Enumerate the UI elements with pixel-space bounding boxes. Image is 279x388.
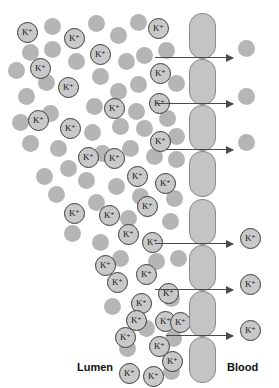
particle xyxy=(238,88,255,105)
potassium-ion-label: K⁺ xyxy=(63,83,74,92)
particle xyxy=(170,250,187,267)
particle xyxy=(238,134,255,151)
transport-arrow xyxy=(155,289,233,290)
potassium-ion-label: K⁺ xyxy=(132,172,143,181)
potassium-ion: K⁺ xyxy=(104,98,125,119)
potassium-ion-label: K⁺ xyxy=(160,179,171,188)
particle xyxy=(110,27,127,44)
particle xyxy=(60,160,77,177)
epithelial-cell xyxy=(189,151,216,197)
potassium-ion-label: K⁺ xyxy=(109,104,120,113)
potassium-ion: K⁺ xyxy=(143,366,164,387)
potassium-ion: K⁺ xyxy=(155,173,176,194)
particle xyxy=(168,75,185,92)
potassium-ion-label: K⁺ xyxy=(123,230,134,239)
particle xyxy=(86,98,103,115)
transport-arrow xyxy=(166,335,233,336)
epithelial-cell xyxy=(189,59,216,105)
particle xyxy=(88,15,105,32)
potassium-ion: K⁺ xyxy=(136,264,157,285)
potassium-ion-label: K⁺ xyxy=(112,278,123,287)
potassium-ion-label: K⁺ xyxy=(142,202,153,211)
particle xyxy=(64,225,81,242)
particle xyxy=(122,140,139,157)
potassium-ion-label: K⁺ xyxy=(35,64,46,73)
potassium-ion: K⁺ xyxy=(104,148,125,169)
potassium-ion-label: K⁺ xyxy=(147,238,158,247)
potassium-ion: K⁺ xyxy=(162,351,183,372)
potassium-ion: K⁺ xyxy=(28,110,49,131)
potassium-ion: K⁺ xyxy=(115,327,136,348)
particle xyxy=(92,68,109,85)
potassium-ion: K⁺ xyxy=(107,272,128,293)
particle xyxy=(130,14,147,31)
potassium-ion-label: K⁺ xyxy=(154,342,165,351)
potassium-ion-label: K⁺ xyxy=(83,153,94,162)
epithelial-cell xyxy=(189,337,216,383)
potassium-ion-label: K⁺ xyxy=(167,357,178,366)
particle xyxy=(48,186,65,203)
particle xyxy=(22,135,39,152)
particle xyxy=(162,213,179,230)
lumen-label: Lumen xyxy=(77,361,113,373)
potassium-ion-label: K⁺ xyxy=(245,234,256,243)
potassium-ion: K⁺ xyxy=(64,28,85,49)
potassium-ion-label: K⁺ xyxy=(104,211,115,220)
potassium-ion: K⁺ xyxy=(137,196,158,217)
transport-arrow xyxy=(166,149,233,150)
particle xyxy=(36,168,53,185)
particle xyxy=(108,178,125,195)
potassium-ion: K⁺ xyxy=(148,18,169,39)
potassium-ion: K⁺ xyxy=(30,58,51,79)
potassium-ion-label: K⁺ xyxy=(155,137,166,146)
potassium-ion: K⁺ xyxy=(17,22,38,43)
potassium-ion: K⁺ xyxy=(127,166,148,187)
potassium-ion-label: K⁺ xyxy=(100,261,111,270)
potassium-ion-label: K⁺ xyxy=(65,124,76,133)
particle xyxy=(68,53,85,70)
potassium-ion-label: K⁺ xyxy=(148,372,159,381)
potassium-ion-label: K⁺ xyxy=(33,116,44,125)
potassium-ion: K⁺ xyxy=(119,363,140,384)
potassium-ion: K⁺ xyxy=(240,274,261,295)
potassium-ion-label: K⁺ xyxy=(245,326,256,335)
particle xyxy=(128,103,145,120)
particle xyxy=(136,47,153,64)
potassium-ion-label: K⁺ xyxy=(124,369,135,378)
potassium-ion-label: K⁺ xyxy=(131,316,142,325)
potassium-ion: K⁺ xyxy=(170,312,191,333)
epithelial-cell xyxy=(189,105,216,151)
particle xyxy=(118,53,135,70)
epithelial-cell xyxy=(189,13,216,59)
potassium-ion: K⁺ xyxy=(90,44,111,65)
potassium-ion-label: K⁺ xyxy=(109,154,120,163)
potassium-ion-label: K⁺ xyxy=(120,333,131,342)
potassium-ion-label: K⁺ xyxy=(141,270,152,279)
potassium-ion: K⁺ xyxy=(60,118,81,139)
particle xyxy=(136,120,153,137)
particle xyxy=(12,114,29,131)
particle xyxy=(18,88,35,105)
potassium-ion: K⁺ xyxy=(150,63,171,84)
potassium-ion: K⁺ xyxy=(240,228,261,249)
particle xyxy=(168,151,185,168)
particle xyxy=(50,140,67,157)
epithelial-cell xyxy=(189,291,216,337)
particle xyxy=(8,62,25,79)
particle xyxy=(84,124,101,141)
potassium-ion: K⁺ xyxy=(58,77,79,98)
potassium-ion: K⁺ xyxy=(118,224,139,245)
blood-label: Blood xyxy=(227,361,258,373)
transport-arrow xyxy=(155,57,233,58)
particle xyxy=(78,172,95,189)
epithelial-cell xyxy=(189,245,216,291)
potassium-ion: K⁺ xyxy=(158,283,179,304)
particle xyxy=(44,18,61,35)
potassium-ion-label: K⁺ xyxy=(245,280,256,289)
transport-arrow xyxy=(155,103,233,104)
potassium-ion: K⁺ xyxy=(99,205,120,226)
transport-arrow xyxy=(155,243,233,244)
potassium-ion: K⁺ xyxy=(64,203,85,224)
potassium-ion-label: K⁺ xyxy=(69,34,80,43)
particle xyxy=(92,234,109,251)
